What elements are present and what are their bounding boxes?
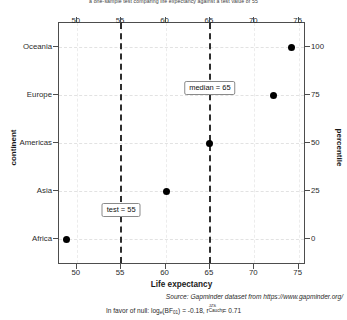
annotation-label: test = 55 — [102, 203, 141, 217]
gridline-vertical — [299, 23, 300, 263]
y-tick-label-europe: Europe — [27, 90, 52, 99]
gridline-horizontal — [59, 191, 304, 192]
x-tickmark — [76, 17, 77, 22]
y2-axis-title: percentile — [335, 118, 344, 178]
y-tickmark — [305, 190, 310, 191]
y-tick-label-oceania: Oceania — [23, 42, 52, 51]
y-tickmark — [53, 94, 58, 95]
reference-line-test — [120, 23, 122, 263]
y-tickmark — [305, 142, 310, 143]
y2-tick-label: 75 — [311, 90, 320, 99]
gridline-horizontal — [59, 95, 304, 96]
y-tickmark — [305, 238, 310, 239]
plot-panel: test = 55median = 65 — [58, 22, 305, 264]
x-tickmark — [120, 17, 121, 22]
y-tickmark — [53, 46, 58, 47]
chart-root: a one-sample test comparing life expecta… — [0, 0, 347, 320]
x-tick-label-bottom: 55 — [116, 268, 125, 277]
x-tick-label-bottom: 70 — [249, 268, 258, 277]
x-tickmark — [253, 17, 254, 22]
x-tickmark — [165, 264, 166, 269]
data-point[interactable] — [63, 236, 70, 243]
y-tickmark — [53, 238, 58, 239]
y-tickmark — [53, 190, 58, 191]
gridline-horizontal — [59, 47, 304, 48]
gridline-vertical — [254, 23, 255, 263]
x-axis-title: Life expectancy — [58, 280, 305, 289]
x-tickmark — [209, 264, 210, 269]
data-point[interactable] — [163, 188, 170, 195]
data-point[interactable] — [288, 44, 295, 51]
gridline-horizontal — [59, 239, 304, 240]
x-tick-label-bottom: 60 — [160, 268, 169, 277]
annotation-label: median = 65 — [184, 81, 236, 95]
x-tick-label-bottom: 65 — [205, 268, 214, 277]
gridline-vertical — [77, 23, 78, 263]
x-tick-label-bottom: 75 — [293, 268, 302, 277]
y-axis-title: continent — [9, 118, 18, 178]
plot-area: test = 55median = 65 — [59, 23, 304, 263]
gridline-vertical — [166, 23, 167, 263]
statistic-note: In favor of null: loge(BF01) = -0.18, rJ… — [0, 306, 347, 314]
source-note: Source: Gapminder dataset from https://w… — [0, 293, 343, 300]
gridline-horizontal — [59, 143, 304, 144]
y-tickmark — [53, 142, 58, 143]
data-point[interactable] — [270, 92, 277, 99]
x-tickmark — [76, 264, 77, 269]
x-tickmark — [120, 264, 121, 269]
data-point[interactable] — [206, 140, 213, 147]
y2-tick-label: 100 — [311, 42, 324, 51]
x-tickmark — [298, 17, 299, 22]
y-tick-label-africa: Africa — [32, 234, 52, 243]
y-tick-label-americas: Americas — [20, 138, 53, 147]
y2-tick-label: 0 — [311, 234, 315, 243]
x-tickmark — [298, 264, 299, 269]
x-tickmark — [209, 17, 210, 22]
y2-tick-label: 25 — [311, 186, 320, 195]
y-tickmark — [305, 46, 310, 47]
y2-tick-label: 50 — [311, 138, 320, 147]
x-tickmark — [253, 264, 254, 269]
y-tickmark — [305, 94, 310, 95]
y-tick-label-asia: Asia — [37, 186, 52, 195]
x-tickmark — [165, 17, 166, 22]
chart-title: a one-sample test comparing life expecta… — [0, 0, 347, 4]
x-tick-label-bottom: 50 — [71, 268, 80, 277]
